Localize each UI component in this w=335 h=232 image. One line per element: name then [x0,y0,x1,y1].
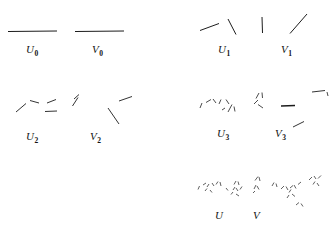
line-segment [210,190,212,193]
segment-group-u1 [200,19,236,35]
line-segment [313,182,315,185]
line-segment [309,177,312,180]
line-segment [226,100,229,105]
line-segment [301,204,303,207]
panel-label-subscript: 3 [226,133,230,142]
line-segment [108,108,119,124]
line-segment [47,100,56,104]
line-segment [234,107,235,112]
line-segment [233,187,235,190]
line-segment [327,92,328,96]
line-segment [234,181,236,185]
line-segment [75,31,124,32]
panel-label-subscript: 2 [35,136,39,145]
panel-label-base: V [281,43,288,55]
line-segment [262,93,263,99]
line-segment [286,187,288,191]
segment-layer [8,14,328,207]
line-segment [203,183,206,185]
line-segment [289,190,291,193]
panel-label-subscript: 1 [288,49,292,58]
line-segment [119,97,132,102]
line-segment [226,188,228,191]
line-segment [290,186,293,189]
line-segment [258,105,263,109]
line-segment [222,108,225,110]
line-segment [205,189,207,192]
panel-label-base: U [26,43,34,55]
panel-label-base: V [90,130,97,142]
panel-label-subscript: 2 [97,136,101,145]
line-segment [200,24,219,31]
line-segment [272,183,274,187]
line-segment [30,101,39,104]
panel-label-subscript: 0 [35,49,39,58]
panel-label-v: V [253,210,260,221]
panel-label-u1: U1 [218,44,230,55]
line-segment [294,185,296,189]
line-segment [236,188,238,191]
line-segment [255,177,258,181]
panel-label-u: U [215,210,223,221]
panel-label-base: U [26,130,34,142]
line-segment [240,187,242,190]
line-segment [256,93,259,99]
line-segment [281,186,284,189]
line-segment [8,31,57,32]
panel-label-base: V [253,209,260,221]
segment-group-v [253,176,321,207]
segment-group-u0 [8,31,57,32]
panel-label-u0: U0 [26,44,38,55]
line-segment [276,184,277,188]
segment-group-v3 [254,91,328,128]
segment-group-v2 [73,95,133,125]
line-segment [74,95,79,100]
line-segment [228,19,236,35]
line-segment [207,184,209,187]
line-segment [292,194,295,197]
panel-label-base: U [217,127,225,139]
line-segment [238,182,239,186]
line-segment [228,105,232,113]
line-segment [314,176,316,179]
segment-figure-canvas [0,0,335,232]
panel-label-u3: U3 [217,128,229,139]
line-segment [281,106,295,107]
line-segment [296,203,299,206]
line-segment [290,14,307,34]
line-segment [16,104,26,113]
panel-label-base: U [215,209,223,221]
line-segment [298,182,301,185]
line-segment [318,176,321,179]
line-segment [45,111,57,112]
panel-label-v1: V1 [281,44,291,55]
segment-group-u2 [16,100,57,113]
line-segment [220,182,221,186]
segment-group-v1 [262,14,307,34]
panel-label-base: U [218,43,226,55]
segment-group-v0 [75,31,124,32]
line-segment [213,99,216,103]
panel-label-subscript: 3 [282,133,286,142]
line-segment [259,177,260,181]
line-segment [219,100,221,105]
line-segment [317,183,319,186]
line-segment [200,103,202,108]
panel-label-subscript: 0 [99,49,103,58]
panel-label-base: V [275,127,282,139]
line-segment [287,195,289,198]
line-segment [216,182,218,185]
line-segment [236,194,239,196]
line-segment [293,122,304,128]
line-segment [231,192,233,195]
panel-label-v3: V3 [275,128,285,139]
line-segment [198,186,200,190]
segment-group-u [198,181,242,196]
panel-label-v0: V0 [92,44,102,55]
line-segment [206,100,211,103]
panel-label-subscript: 1 [227,49,231,58]
line-segment [254,100,258,104]
line-segment [253,191,255,193]
line-segment [257,186,259,190]
panel-label-base: V [92,43,99,55]
